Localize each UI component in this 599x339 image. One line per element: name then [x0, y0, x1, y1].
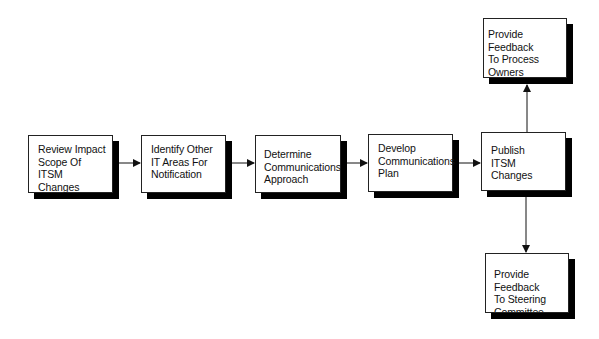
node-label: Provide Feedback To Steering Committee: [494, 268, 568, 313]
node-label: Publish ITSM Changes: [491, 144, 532, 182]
node-label: Review Impact Scope Of ITSM Changes: [38, 143, 106, 193]
node-label: Identify Other IT Areas For Notification: [151, 143, 213, 181]
node-publish-changes: Publish ITSM Changes: [481, 132, 566, 191]
node-label: Determine Communications Approach: [264, 148, 341, 186]
node-identify-other-it-areas: Identify Other IT Areas For Notification: [141, 135, 226, 193]
node-feedback-steering-committee: Provide Feedback To Steering Committee: [485, 253, 569, 313]
node-determine-approach: Determine Communications Approach: [255, 135, 341, 193]
node-develop-plan: Develop Communications Plan: [368, 134, 453, 192]
node-label: Develop Communications Plan: [378, 142, 455, 180]
node-label: Provide Feedback To Process Owners: [488, 28, 566, 78]
node-review-impact: Review Impact Scope Of ITSM Changes: [28, 135, 113, 193]
node-feedback-process-owners: Provide Feedback To Process Owners: [483, 18, 567, 78]
